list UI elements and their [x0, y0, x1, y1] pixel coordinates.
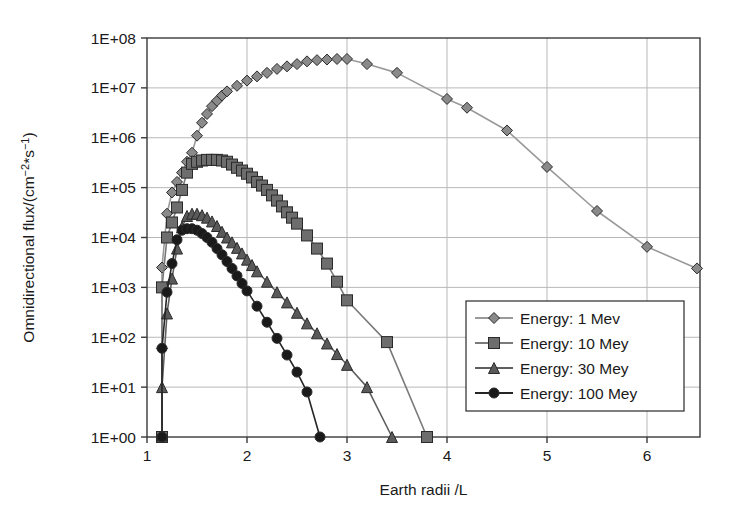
data-point-square [332, 276, 343, 287]
data-point-square [177, 184, 188, 195]
data-point-square [172, 202, 183, 213]
data-point-circle [315, 432, 325, 442]
data-point-square [322, 258, 333, 269]
legend-item-2[interactable]: Energy: 10 Mey [475, 335, 629, 352]
data-point-square [382, 337, 393, 348]
data-point-square [422, 432, 433, 443]
y-tick-label: 1E+08 [91, 30, 136, 47]
data-point-circle [282, 350, 292, 360]
legend-label: Energy: 100 Mey [520, 385, 637, 402]
legend-marker-circle [489, 388, 499, 398]
y-tick-label: 1E+01 [91, 379, 136, 396]
data-point-square [292, 218, 303, 229]
data-point-circle [167, 259, 177, 269]
data-point-circle [157, 432, 167, 442]
y-tick-label: 1E+02 [91, 329, 136, 346]
x-tick-label: 1 [143, 447, 152, 464]
data-point-square [312, 243, 323, 254]
y-tick-label: 1E+00 [91, 429, 137, 446]
data-point-circle [302, 387, 312, 397]
y-axis-title: Omnidirectional flux/(cm−2*s−1) [19, 132, 37, 342]
data-point-circle [262, 317, 272, 327]
data-point-circle [162, 287, 172, 297]
x-tick-label: 6 [643, 447, 652, 464]
x-tick-label: 4 [443, 447, 452, 464]
y-tick-label: 1E+03 [91, 279, 136, 296]
data-point-circle [172, 235, 182, 245]
chart-legend: Energy: 1 MevEnergy: 10 MeyEnergy: 30 Me… [466, 301, 684, 411]
flux-vs-l-chart: 1E+001E+011E+021E+031E+041E+051E+061E+07… [0, 0, 748, 514]
legend-label: Energy: 1 Mev [520, 310, 620, 327]
data-point-square [342, 295, 353, 306]
data-point-square [167, 217, 178, 228]
data-point-circle [272, 333, 282, 343]
x-tick-label: 2 [243, 447, 252, 464]
data-point-circle [252, 301, 262, 311]
data-point-square [162, 232, 173, 243]
x-axis-title: Earth radii /L [380, 481, 468, 498]
x-tick-label: 5 [543, 447, 552, 464]
y-tick-label: 1E+05 [91, 179, 136, 196]
data-point-circle [292, 367, 302, 377]
legend-label: Energy: 30 Mey [520, 360, 629, 377]
legend-marker-square [489, 338, 500, 349]
legend-label: Energy: 10 Mey [520, 335, 629, 352]
data-point-circle [242, 286, 252, 296]
data-point-circle [157, 343, 167, 353]
y-tick-label: 1E+07 [91, 79, 136, 96]
data-point-square [302, 230, 313, 241]
y-tick-label: 1E+04 [91, 229, 137, 246]
x-tick-label: 3 [343, 447, 352, 464]
y-tick-label: 1E+06 [91, 129, 136, 146]
chart-figure: 1E+001E+011E+021E+031E+041E+051E+061E+07… [0, 0, 748, 514]
